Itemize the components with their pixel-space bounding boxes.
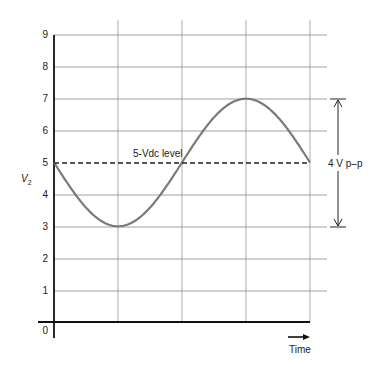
svg-text:5: 5 bbox=[42, 157, 48, 168]
svg-text:3: 3 bbox=[42, 221, 48, 232]
x-axis-label: Time bbox=[289, 344, 311, 355]
dc-level-label: 5-Vdc level bbox=[133, 148, 182, 159]
vertical-gridlines bbox=[118, 20, 310, 322]
svg-text:2: 2 bbox=[42, 253, 48, 264]
svg-text:8: 8 bbox=[42, 61, 48, 72]
chart: 1 2 3 4 5 6 7 8 9 0 V2 5-Vdc level 4 V p… bbox=[0, 0, 382, 372]
y-tick-labels: 1 2 3 4 5 6 7 8 9 0 bbox=[42, 29, 48, 336]
time-arrow-icon bbox=[288, 334, 310, 340]
svg-text:1: 1 bbox=[42, 285, 48, 296]
svg-text:9: 9 bbox=[42, 29, 48, 40]
svg-text:6: 6 bbox=[42, 125, 48, 136]
svg-text:7: 7 bbox=[42, 93, 48, 104]
y-axis-label: V2 bbox=[21, 173, 32, 186]
svg-text:4: 4 bbox=[42, 189, 48, 200]
peak-to-peak-label: 4 V p–p bbox=[328, 158, 363, 169]
svg-text:0: 0 bbox=[42, 325, 48, 336]
